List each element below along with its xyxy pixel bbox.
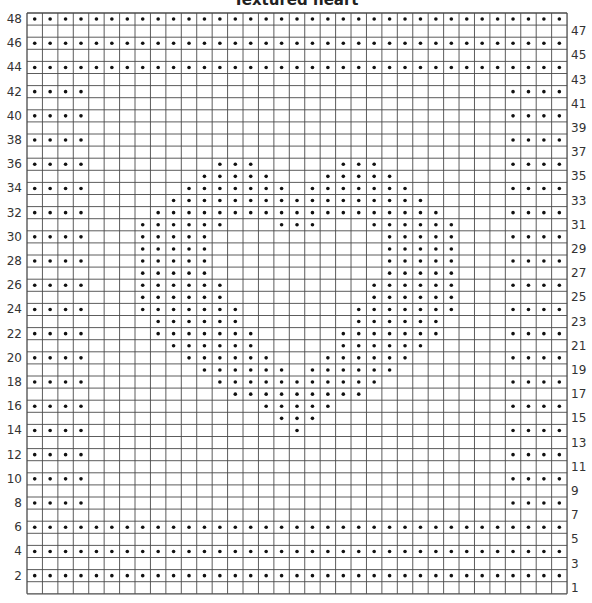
purl-dot [280,392,284,396]
purl-dot [234,356,238,360]
purl-dot [187,66,191,70]
purl-dot [326,380,330,384]
purl-dot [357,550,361,554]
purl-dot [372,525,376,529]
purl-dot [203,223,207,227]
purl-dot [450,283,454,287]
purl-dot [527,477,531,481]
purl-dot [64,114,68,118]
purl-dot [48,259,52,263]
purl-dot [187,344,191,348]
purl-dot [172,199,176,203]
purl-dot [527,574,531,578]
purl-dot [419,525,423,529]
purl-dot [79,550,83,554]
purl-dot [295,404,299,408]
purl-dot [542,283,546,287]
purl-dot [79,356,83,360]
purl-dot [434,574,438,578]
purl-dot [357,574,361,578]
purl-dot [203,332,207,336]
purl-dot [542,211,546,215]
purl-dot [542,162,546,166]
purl-dot [110,574,114,578]
purl-dot [141,296,145,300]
purl-dot [403,259,407,263]
purl-dot [434,332,438,336]
row-label: 4 [0,545,22,557]
purl-dot [542,259,546,263]
purl-dot [249,392,253,396]
purl-dot [403,271,407,275]
purl-dot [203,259,207,263]
purl-dot [33,429,37,433]
purl-dot [450,525,454,529]
purl-dot [280,41,284,45]
purl-dot [357,211,361,215]
purl-dot [388,187,392,191]
purl-dot [558,356,562,360]
purl-dot [172,308,176,312]
purl-dot [419,247,423,251]
purl-dot [388,574,392,578]
purl-dot [33,550,37,554]
purl-dot [280,223,284,227]
purl-dot [388,368,392,372]
purl-dot [542,114,546,118]
purl-dot [234,550,238,554]
purl-dot [187,247,191,251]
purl-dot [95,525,99,529]
row-label: 19 [571,364,586,376]
purl-dot [511,283,515,287]
purl-dot [295,550,299,554]
purl-dot [126,574,130,578]
purl-dot [264,550,268,554]
purl-dot [295,199,299,203]
purl-dot [79,477,83,481]
purl-dot [527,114,531,118]
purl-dot [496,525,500,529]
purl-dot [311,66,315,70]
purl-dot [527,187,531,191]
purl-dot [218,17,222,21]
purl-dot [511,114,515,118]
purl-dot [403,525,407,529]
purl-dot [234,380,238,384]
purl-dot [172,525,176,529]
row-label: 32 [0,207,22,219]
purl-dot [357,17,361,21]
purl-dot [48,332,52,336]
purl-dot [187,271,191,275]
purl-dot [280,187,284,191]
purl-dot [511,162,515,166]
purl-dot [527,501,531,505]
purl-dot [542,574,546,578]
purl-dot [79,211,83,215]
purl-dot [203,271,207,275]
purl-dot [234,320,238,324]
purl-dot [203,247,207,251]
purl-dot [372,162,376,166]
purl-dot [203,574,207,578]
purl-dot [527,332,531,336]
purl-dot [388,199,392,203]
purl-dot [419,296,423,300]
purl-dot [465,41,469,45]
purl-dot [357,162,361,166]
purl-dot [172,247,176,251]
purl-dot [33,501,37,505]
purl-dot [465,525,469,529]
purl-dot [33,90,37,94]
purl-dot [527,404,531,408]
purl-dot [48,211,52,215]
purl-dot [156,525,160,529]
purl-dot [480,17,484,21]
purl-dot [558,308,562,312]
purl-dot [342,380,346,384]
purl-dot [187,41,191,45]
purl-dot [79,41,83,45]
purl-dot [218,308,222,312]
purl-dot [311,550,315,554]
purl-dot [403,211,407,215]
row-label: 27 [571,267,586,279]
